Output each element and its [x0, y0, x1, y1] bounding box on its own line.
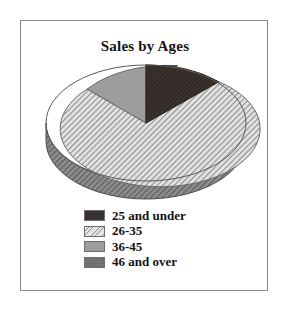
chart-legend: 25 and under 26-35 36-45 46 and over — [84, 208, 259, 270]
legend-swatch-icon — [84, 210, 105, 221]
legend-label: 36-45 — [112, 239, 142, 255]
legend-label: 46 and over — [112, 254, 177, 270]
legend-label: 25 and under — [112, 208, 186, 224]
legend-item-26-35[interactable]: 26-35 — [84, 224, 259, 240]
figure-frame: Sales by Ages — [20, 20, 268, 291]
legend-label: 26-35 — [112, 223, 142, 239]
legend-swatch-icon — [84, 226, 105, 237]
legend-swatch-icon — [84, 241, 105, 252]
legend-item-25-and-under[interactable]: 25 and under — [84, 208, 259, 224]
chart-figure: Sales by Ages — [0, 0, 290, 311]
legend-swatch-icon — [84, 257, 105, 268]
legend-item-46-and-over[interactable]: 46 and over — [84, 255, 259, 271]
legend-item-36-45[interactable]: 36-45 — [84, 239, 259, 255]
